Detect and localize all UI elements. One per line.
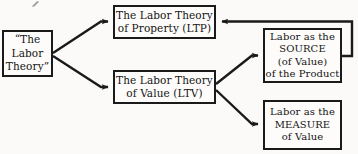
node-labor-as-source[interactable]: Labor as the SOURCE (of Value) of the Pr… bbox=[263, 28, 342, 83]
node-labor-theory-line-3: Theory” bbox=[6, 60, 49, 73]
edge-root-to-ltv bbox=[53, 56, 108, 87]
edge-ltv-to-measure bbox=[216, 90, 258, 124]
node-labor-theory-of-property[interactable]: The Labor Theory of Property (LTP) bbox=[113, 5, 216, 39]
node-ltp-line-1: The Labor Theory bbox=[116, 9, 213, 22]
node-source-line-4: of the Product bbox=[266, 68, 340, 80]
diagram-canvas: “The Labor Theory” The Labor Theory of P… bbox=[0, 0, 358, 154]
node-ltv-line-1: The Labor Theory bbox=[116, 74, 213, 87]
node-source-line-3: (of Value) bbox=[278, 56, 328, 68]
node-ltp-line-2: of Property (LTP) bbox=[118, 22, 211, 35]
node-labor-theory-of-value[interactable]: The Labor Theory of Value (LTV) bbox=[113, 70, 216, 104]
node-measure-line-1: Labor as the bbox=[270, 106, 335, 118]
scan-artifact bbox=[31, 0, 41, 8]
edge-ltv-to-source bbox=[216, 56, 258, 85]
node-labor-theory[interactable]: “The Labor Theory” bbox=[2, 30, 53, 77]
node-labor-theory-line-2: Labor bbox=[12, 47, 44, 60]
node-measure-line-2: MEASURE bbox=[275, 119, 331, 131]
edge-root-to-ltp bbox=[53, 22, 108, 54]
node-source-line-1: Labor as the bbox=[270, 31, 335, 43]
node-labor-as-measure[interactable]: Labor as the MEASURE of Value bbox=[263, 100, 342, 150]
node-ltv-line-2: of Value (LTV) bbox=[126, 87, 202, 100]
node-measure-line-3: of Value bbox=[282, 131, 324, 143]
node-source-line-2: SOURCE bbox=[279, 43, 326, 55]
node-labor-theory-line-1: “The bbox=[15, 33, 41, 46]
